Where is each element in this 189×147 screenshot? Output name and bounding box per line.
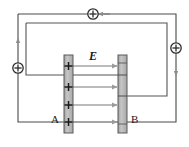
plate-a-label: A <box>51 114 59 125</box>
electric-field-lines <box>72 66 117 122</box>
electric-field-label: E <box>89 50 97 62</box>
current-marker-right <box>171 43 181 53</box>
current-marker-top <box>88 9 98 19</box>
plate-b-label: B <box>131 114 138 125</box>
outer-loop <box>18 14 176 122</box>
capacitor-circuit-figure: A B E <box>0 0 189 147</box>
diagram-canvas <box>0 0 189 147</box>
current-marker-left <box>13 63 23 73</box>
plate-b <box>118 55 127 133</box>
